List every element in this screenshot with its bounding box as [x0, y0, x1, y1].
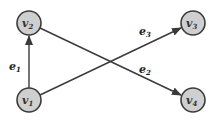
node-v3: v3: [181, 11, 205, 35]
node-v2: v2: [17, 11, 41, 35]
node-v1: v1: [17, 88, 41, 112]
edge-label-e2: e2: [139, 63, 151, 77]
graph-canvas: e1 e2 e3 v2 v1 v3 v4: [0, 0, 217, 120]
node-v4: v4: [181, 88, 205, 112]
edge-label-e1: e1: [9, 60, 21, 74]
edge-label-e3: e3: [139, 25, 151, 39]
